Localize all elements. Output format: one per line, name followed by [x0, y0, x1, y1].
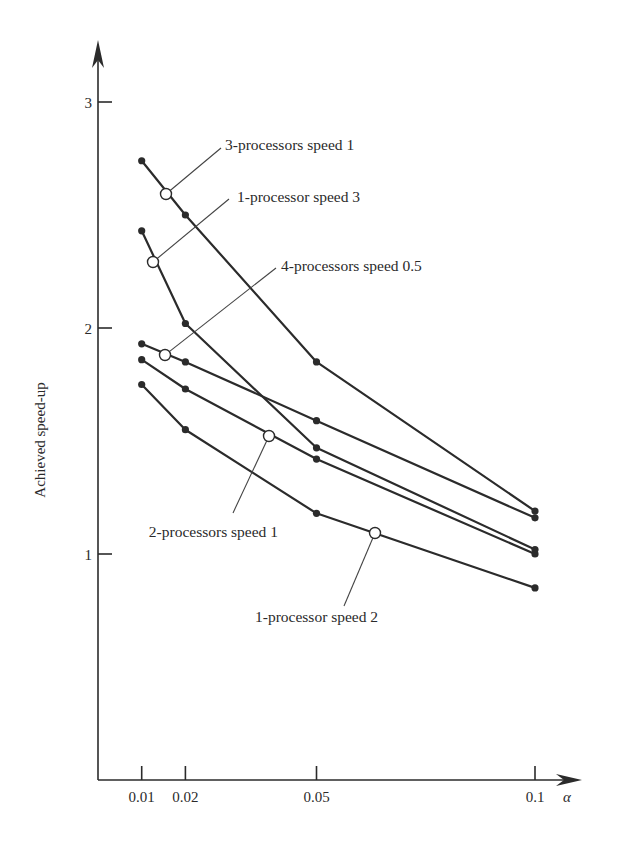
- annotation-circle-icon: [161, 189, 172, 200]
- data-point-marker: [313, 455, 320, 462]
- x-tick-label: 0.01: [129, 789, 155, 805]
- x-axis-title: α: [563, 789, 572, 805]
- data-point-marker: [138, 227, 145, 234]
- data-point-marker: [182, 320, 189, 327]
- annotation-circle-icon: [148, 257, 159, 268]
- leader-line: [233, 441, 267, 513]
- x-tick-label: 0.02: [172, 789, 198, 805]
- annotations: 3-processors speed 11-processor speed 34…: [148, 136, 423, 625]
- leader-line: [157, 199, 229, 258]
- y-tick-label: 2: [85, 321, 93, 337]
- data-point-marker: [138, 157, 145, 164]
- series-annotation: 1-processor speed 2: [255, 528, 381, 626]
- data-point-marker: [531, 584, 538, 591]
- axes: 123 0.010.020.050.1 Achieved speed-up α: [32, 40, 582, 805]
- data-point-marker: [531, 507, 538, 514]
- leader-line: [170, 148, 221, 190]
- data-point-marker: [182, 211, 189, 218]
- data-point-marker: [182, 385, 189, 392]
- data-point-marker: [313, 358, 320, 365]
- series: [138, 227, 539, 553]
- data-point-marker: [313, 417, 320, 424]
- annotation-label: 1-processor speed 3: [237, 188, 360, 205]
- data-point-marker: [313, 510, 320, 517]
- data-point-marker: [313, 444, 320, 451]
- series-line: [142, 344, 535, 518]
- series: [138, 340, 539, 521]
- leader-line: [344, 538, 373, 606]
- annotation-circle-icon: [160, 350, 171, 361]
- y-tick-label: 1: [85, 547, 93, 563]
- speedup-chart: 123 0.010.020.050.1 Achieved speed-up α …: [0, 0, 617, 845]
- annotation-label: 2-processors speed 1: [149, 523, 278, 540]
- series-annotation: 4-processors speed 0.5: [160, 257, 423, 361]
- annotation-label: 4-processors speed 0.5: [281, 257, 422, 274]
- data-point-marker: [182, 358, 189, 365]
- annotation-label: 3-processors speed 1: [225, 136, 354, 153]
- data-point-marker: [182, 426, 189, 433]
- y-axis-title: Achieved speed-up: [32, 382, 48, 497]
- series-annotation: 1-processor speed 3: [148, 188, 361, 268]
- series-line: [142, 231, 535, 550]
- data-point-marker: [138, 340, 145, 347]
- annotation-circle-icon: [370, 528, 381, 539]
- annotation-circle-icon: [264, 431, 275, 442]
- data-point-marker: [138, 381, 145, 388]
- y-tick-label: 3: [85, 95, 93, 111]
- data-point-marker: [138, 356, 145, 363]
- leader-line: [169, 268, 276, 352]
- data-point-marker: [531, 514, 538, 521]
- series: [138, 381, 539, 592]
- data-point-marker: [531, 550, 538, 557]
- x-tick-label: 0.05: [303, 789, 329, 805]
- x-tick-label: 0.1: [526, 789, 545, 805]
- annotation-label: 1-processor speed 2: [255, 608, 378, 625]
- x-ticks: 0.010.020.050.1: [129, 766, 545, 805]
- series-line: [142, 385, 535, 588]
